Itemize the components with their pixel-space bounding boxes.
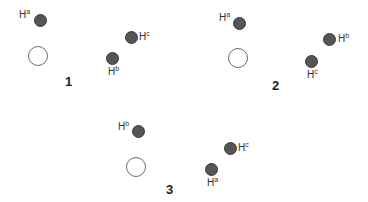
- hydrogen-atom-b: [132, 125, 145, 138]
- atom-label-b: Hb: [338, 34, 349, 44]
- hydrogen-atom-b: [323, 33, 336, 46]
- hydrogen-atom-a: [34, 14, 47, 27]
- atom-label-c: Hc: [238, 143, 249, 153]
- hydrogen-atom-c: [305, 55, 318, 68]
- hydrogen-atom-b: [106, 52, 119, 65]
- hydrogen-atom-a: [233, 17, 246, 30]
- atom-label-c: Hc: [307, 70, 318, 80]
- atom-label-b: Hb: [118, 122, 129, 132]
- hydrogen-atom-a: [205, 163, 218, 176]
- center-atom: [126, 157, 146, 177]
- configuration-number: 2: [272, 78, 279, 93]
- atom-label-a: Ha: [19, 10, 30, 20]
- configuration-number: 1: [65, 74, 72, 89]
- configuration-number: 3: [166, 182, 173, 197]
- center-atom: [228, 48, 248, 68]
- center-atom: [28, 46, 48, 66]
- atom-label-a: Ha: [207, 178, 218, 188]
- hydrogen-atom-c: [224, 142, 237, 155]
- atom-label-c: Hc: [139, 32, 150, 42]
- atom-label-b: Hb: [108, 67, 119, 77]
- hydrogen-atom-c: [125, 31, 138, 44]
- atom-label-a: Ha: [219, 13, 230, 23]
